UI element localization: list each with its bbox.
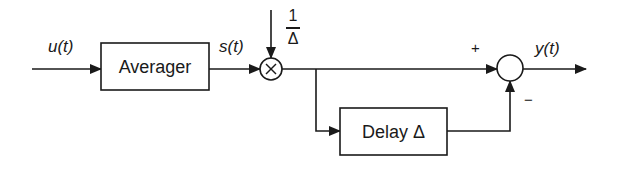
gain-denominator: Δ <box>288 31 299 47</box>
delay-label: Delay Δ <box>340 108 447 155</box>
gain-numerator: 1 <box>289 8 298 24</box>
gain-fraction: 1 Δ <box>286 8 300 47</box>
summing-junction <box>497 55 523 81</box>
output-signal-label: y(t) <box>535 40 560 57</box>
plus-sign: + <box>471 40 480 55</box>
intermediate-signal-label: s(t) <box>219 38 244 55</box>
averager-label: Averager <box>101 43 209 90</box>
minus-sign: − <box>524 92 533 107</box>
input-signal-label: u(t) <box>48 38 74 55</box>
diagram-canvas <box>0 0 621 170</box>
delay-branch-line <box>316 69 340 131</box>
fraction-bar <box>286 27 300 29</box>
delay-output-line <box>447 81 510 131</box>
